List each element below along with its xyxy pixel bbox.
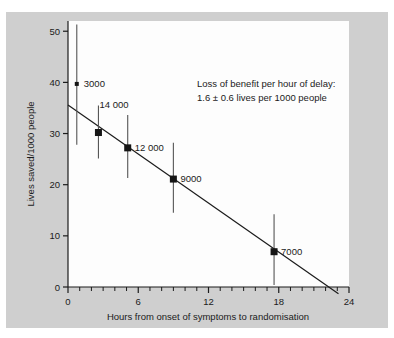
x-tick-label-0: 0 bbox=[65, 296, 70, 307]
data-point-label-7000: 7000 bbox=[281, 246, 302, 257]
annotation-line-2: 1.6 ± 0.6 lives per 1000 people bbox=[197, 92, 327, 103]
error-bars-group bbox=[77, 25, 274, 285]
data-point-label-14000: 14 000 bbox=[99, 99, 128, 110]
y-axis-title: Lives saved/1000 people bbox=[25, 101, 36, 206]
data-marker-12000 bbox=[124, 144, 131, 151]
data-point-label-12000: 12 000 bbox=[135, 142, 164, 153]
y-axis-tick-labels: 01020304050 bbox=[49, 26, 60, 293]
data-point-label-3000: 3000 bbox=[84, 78, 105, 89]
x-tick-label-18: 18 bbox=[273, 296, 284, 307]
data-point-label-9000: 9000 bbox=[180, 173, 201, 184]
regression-fit-line bbox=[68, 105, 338, 294]
x-tick-label-6: 6 bbox=[136, 296, 141, 307]
data-marker-9000 bbox=[170, 176, 177, 183]
x-axis-title: Hours from onset of symptoms to randomis… bbox=[107, 311, 309, 322]
axes bbox=[68, 21, 349, 287]
y-tick-label-50: 50 bbox=[49, 26, 60, 37]
annotation-line-1: Loss of benefit per hour of delay: bbox=[197, 78, 335, 89]
x-axis-major-ticks bbox=[68, 287, 349, 293]
x-tick-label-24: 24 bbox=[344, 296, 355, 307]
y-tick-label-10: 10 bbox=[49, 230, 60, 241]
data-point-labels-group: 300014 00012 00090007000 bbox=[84, 78, 302, 257]
scatter-chart: 01020304050 06121824 300014 00012 000900… bbox=[0, 0, 394, 338]
x-axis-tick-labels: 06121824 bbox=[65, 296, 354, 307]
y-tick-label-20: 20 bbox=[49, 179, 60, 190]
x-tick-label-12: 12 bbox=[203, 296, 214, 307]
data-marker-3000 bbox=[75, 82, 79, 86]
y-tick-label-40: 40 bbox=[49, 77, 60, 88]
figure-root: 01020304050 06121824 300014 00012 000900… bbox=[0, 0, 394, 338]
y-tick-label-0: 0 bbox=[55, 282, 60, 293]
data-marker-14000 bbox=[95, 129, 102, 136]
y-axis-ticks bbox=[63, 31, 68, 287]
data-marker-7000 bbox=[271, 248, 278, 255]
y-tick-label-30: 30 bbox=[49, 128, 60, 139]
